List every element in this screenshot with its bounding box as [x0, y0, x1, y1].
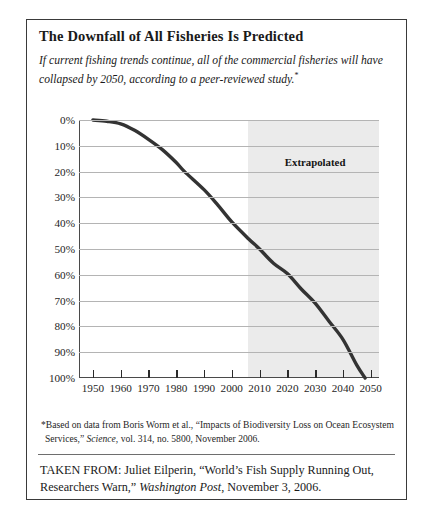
x-axis-tick-label: 1960 [109, 382, 131, 394]
figure-container: The Downfall of All Fisheries Is Predict… [26, 19, 407, 500]
x-axis-tick-mark [315, 370, 316, 378]
gridline [79, 172, 379, 173]
y-axis-tick-label: 50% [29, 243, 75, 255]
x-axis-tick-mark [287, 370, 288, 378]
y-axis-tick-label: 90% [29, 346, 75, 358]
footnote-journal-name: Science [87, 433, 116, 444]
x-axis-tick-label: 1950 [82, 382, 104, 394]
x-axis-tick-mark [148, 370, 149, 378]
gridline [79, 223, 379, 224]
gridline [79, 120, 379, 121]
x-axis-tick-label: 2050 [359, 382, 381, 394]
gridline [79, 352, 379, 353]
x-axis-tick-label: 2030 [304, 382, 326, 394]
x-axis-tick-label: 1970 [137, 382, 159, 394]
y-axis-tick-label: 60% [29, 269, 75, 281]
gridline [79, 275, 379, 276]
y-axis-tick-label: 80% [29, 320, 75, 332]
figure-subtitle-text: If current fishing trends continue, all … [39, 54, 383, 86]
y-axis-tick-label: 0% [29, 114, 75, 126]
gridline [79, 146, 379, 147]
figure-title: The Downfall of All Fisheries Is Predict… [39, 28, 399, 45]
x-axis-tick-mark [204, 370, 205, 378]
gridline [79, 326, 379, 327]
plot-area: Extrapolated [79, 120, 379, 378]
x-axis-tick-label: 1990 [193, 382, 215, 394]
extrapolated-label: Extrapolated [285, 156, 346, 168]
source-suffix: , November 3, 2006. [221, 480, 321, 494]
x-axis-tick-label: 1980 [165, 382, 187, 394]
figure-subtitle: If current fishing trends continue, all … [39, 53, 397, 88]
y-axis-tick-label: 30% [29, 191, 75, 203]
x-axis-tick-mark [93, 370, 94, 378]
y-axis-tick-label: 70% [29, 295, 75, 307]
x-axis-tick-mark [260, 370, 261, 378]
x-axis-labels: 1950196019701980199020002010202020302040… [79, 382, 379, 402]
chart: 0%10%20%30%40%50%60%70%80%90%100% Extrap… [27, 116, 408, 416]
x-axis-tick-label: 2000 [221, 382, 243, 394]
footnote-text-part2: , vol. 314, no. 5800, November 2006. [116, 433, 260, 444]
source-divider [38, 454, 395, 455]
x-axis-tick-label: 2010 [248, 382, 270, 394]
y-axis-tick-label: 40% [29, 217, 75, 229]
subtitle-footnote-marker: * [295, 71, 299, 80]
x-axis-tick-label: 2040 [332, 382, 354, 394]
y-axis-tick-label: 10% [29, 140, 75, 152]
x-axis-tick-mark [121, 370, 122, 378]
x-axis-tick-mark [176, 370, 177, 378]
x-axis-tick-label: 2020 [276, 382, 298, 394]
y-axis-labels: 0%10%20%30%40%50%60%70%80%90%100% [27, 120, 75, 378]
x-axis-tick-mark [232, 370, 233, 378]
source-attribution: TAKEN FROM: Juliet Eilperin, “World’s Fi… [40, 462, 396, 497]
source-publication-name: Washington Post [139, 480, 221, 494]
gridline [79, 197, 379, 198]
x-axis-tick-mark [371, 370, 372, 378]
gridline [79, 249, 379, 250]
gridline [79, 301, 379, 302]
footnote: *Based on data from Boris Worm et al., “… [41, 418, 397, 447]
x-axis-tick-mark [343, 370, 344, 378]
y-axis-tick-label: 100% [29, 372, 75, 384]
y-axis-tick-label: 20% [29, 166, 75, 178]
